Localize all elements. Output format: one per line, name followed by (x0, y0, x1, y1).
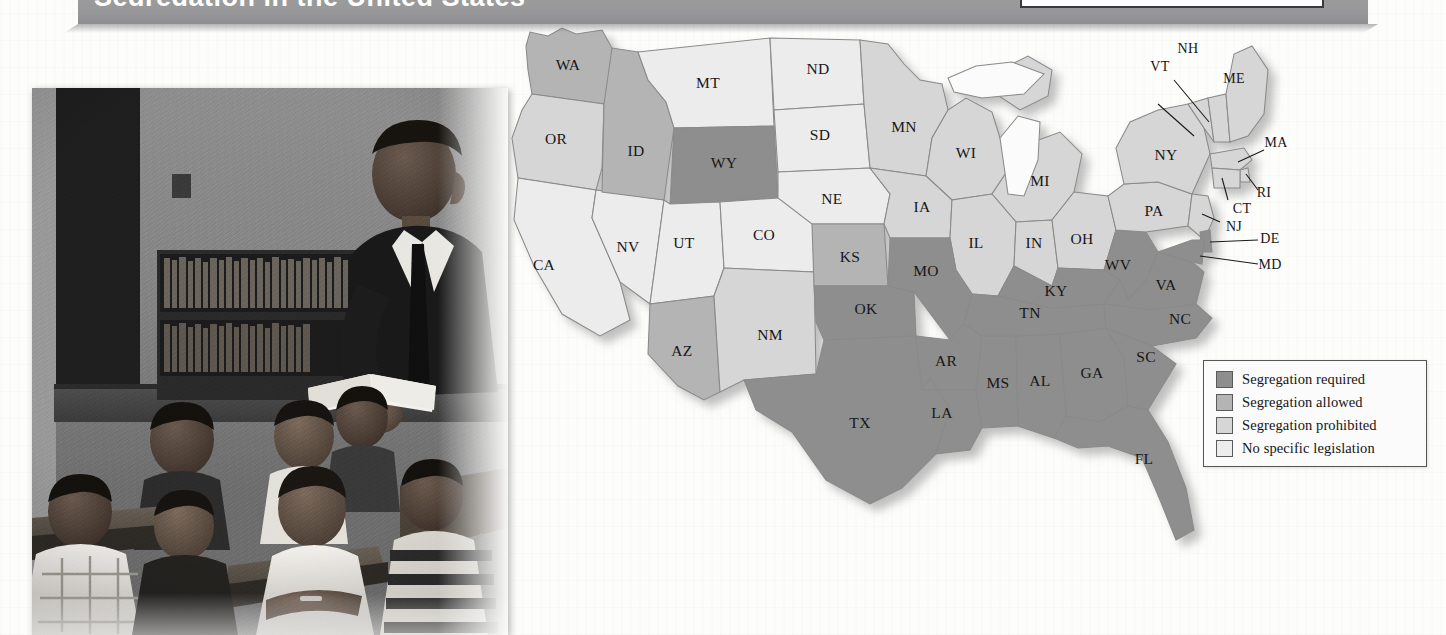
svg-text:IA: IA (914, 198, 931, 215)
svg-text:TX: TX (849, 414, 870, 431)
svg-text:NE: NE (821, 190, 842, 207)
legend-swatch-segregation-allowed (1216, 394, 1233, 411)
legend-item[interactable]: Segregation allowed (1204, 391, 1426, 414)
svg-text:AL: AL (1029, 372, 1050, 389)
header-chip (1020, 0, 1324, 8)
svg-text:SC: SC (1136, 348, 1156, 365)
legend-item[interactable]: No specific legislation (1204, 437, 1426, 460)
map-legend: Segregation required Segregation allowed… (1203, 360, 1427, 467)
svg-text:AZ: AZ (671, 342, 692, 359)
svg-text:FL: FL (1135, 450, 1154, 467)
svg-text:WA: WA (556, 56, 581, 73)
svg-text:WY: WY (711, 154, 737, 171)
legend-item[interactable]: Segregation prohibited (1204, 414, 1426, 437)
svg-text:MO: MO (913, 262, 939, 279)
map-svg: WA OR ID MT WY NV CA UT CO AZ NM ND SD N… (452, 18, 1282, 578)
legend-swatch-segregation-prohibited (1216, 417, 1233, 434)
svg-text:SD: SD (810, 126, 830, 143)
svg-text:MS: MS (986, 374, 1009, 391)
legend-label: No specific legislation (1242, 440, 1375, 457)
svg-text:MN: MN (891, 118, 917, 135)
legend-swatch-segregation-required (1216, 371, 1233, 388)
svg-text:OH: OH (1071, 230, 1094, 247)
header-bar: Segregation in the United States (78, 0, 1368, 24)
svg-text:KS: KS (840, 248, 860, 265)
svg-text:UT: UT (673, 234, 694, 251)
legend-label: Segregation prohibited (1242, 417, 1377, 434)
segregated-classroom-photograph (32, 88, 508, 635)
svg-text:IL: IL (968, 234, 983, 251)
legend-item[interactable]: Segregation required (1204, 368, 1426, 391)
svg-text:PA: PA (1145, 202, 1164, 219)
svg-text:NM: NM (757, 326, 783, 343)
svg-text:WI: WI (956, 144, 976, 161)
svg-text:OK: OK (855, 300, 878, 317)
svg-text:CA: CA (533, 256, 556, 273)
svg-text:RI: RI (1257, 185, 1272, 200)
legend-label: Segregation required (1242, 371, 1365, 388)
photograph-image (32, 88, 508, 635)
svg-text:AR: AR (935, 352, 957, 369)
svg-text:NH: NH (1178, 41, 1199, 56)
svg-text:LA: LA (931, 404, 953, 421)
svg-text:MT: MT (696, 74, 720, 91)
svg-text:ME: ME (1223, 71, 1245, 86)
svg-text:TN: TN (1019, 304, 1040, 321)
svg-text:NJ: NJ (1226, 219, 1242, 234)
page-title: Segregation in the United States (94, 0, 526, 6)
svg-text:MI: MI (1030, 172, 1050, 189)
us-segregation-map: WA OR ID MT WY NV CA UT CO AZ NM ND SD N… (452, 18, 1282, 578)
svg-text:NV: NV (617, 238, 640, 255)
svg-text:IN: IN (1026, 234, 1043, 251)
svg-text:MA: MA (1264, 135, 1288, 150)
svg-text:OR: OR (545, 130, 567, 147)
legend-label: Segregation allowed (1242, 394, 1363, 411)
svg-text:KY: KY (1045, 282, 1068, 299)
state-RI[interactable] (1240, 168, 1250, 182)
svg-text:NY: NY (1155, 146, 1178, 163)
svg-text:VT: VT (1150, 59, 1169, 74)
svg-text:CO: CO (753, 226, 775, 243)
svg-text:DE: DE (1260, 231, 1279, 246)
svg-text:WV: WV (1105, 256, 1132, 273)
state-ME[interactable] (1226, 46, 1268, 142)
svg-text:ID: ID (628, 142, 645, 159)
svg-text:CT: CT (1233, 201, 1252, 216)
svg-text:VA: VA (1156, 276, 1177, 293)
state-FL[interactable] (1054, 406, 1194, 540)
svg-text:NC: NC (1169, 310, 1191, 327)
legend-swatch-no-specific-legislation (1216, 440, 1233, 457)
state-CT[interactable] (1212, 168, 1240, 188)
svg-text:MD: MD (1258, 257, 1281, 272)
svg-text:ND: ND (807, 60, 830, 77)
svg-text:GA: GA (1081, 364, 1104, 381)
